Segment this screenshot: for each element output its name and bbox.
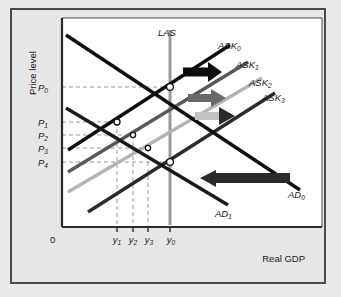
- x-tick-labels: y1 y2 y3 y0: [112, 234, 176, 246]
- y-tick-labels: P0 P1 P2 P3 P4: [38, 82, 48, 169]
- x-tick-label-y1: y1: [112, 234, 122, 246]
- plot-area-background: [62, 18, 322, 227]
- equilibrium-point-e1: [114, 119, 120, 125]
- x-tick-label-y0: y0: [166, 234, 176, 246]
- equilibrium-point-e4: [167, 159, 174, 166]
- equilibrium-point-e2: [130, 132, 135, 137]
- origin-label: 0: [50, 234, 55, 245]
- y-tick-label-p0: P0: [38, 82, 48, 94]
- y-tick-label-p3: P3: [38, 143, 48, 155]
- y-tick-label-p1: P1: [38, 117, 48, 129]
- y-axis-title: Price level: [27, 51, 38, 95]
- equilibrium-point-e0: [167, 84, 174, 91]
- x-tick-label-y3: y3: [144, 234, 154, 246]
- as-ad-diagram: Price level Real GDP 0 P0 P1 P2 P3 P4 y1…: [0, 0, 341, 297]
- y-tick-label-p4: P4: [38, 157, 48, 169]
- equilibrium-point-e3: [145, 145, 150, 150]
- y-tick-label-p2: P2: [38, 130, 48, 142]
- curve-label-las: LAS: [158, 27, 177, 38]
- x-tick-label-y2: y2: [128, 234, 138, 246]
- x-axis-title: Real GDP: [262, 253, 305, 264]
